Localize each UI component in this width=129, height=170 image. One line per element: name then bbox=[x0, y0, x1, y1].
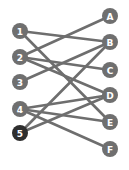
node-E: E bbox=[102, 114, 118, 130]
node-F: F bbox=[102, 141, 118, 157]
node-label: 5 bbox=[17, 129, 23, 139]
edges-layer bbox=[20, 16, 110, 149]
node-B: B bbox=[102, 34, 118, 50]
node-label: 1 bbox=[17, 27, 23, 37]
node-label: 4 bbox=[17, 105, 23, 115]
node-label: E bbox=[107, 118, 113, 128]
node-label: 2 bbox=[17, 53, 23, 63]
node-A: A bbox=[102, 8, 118, 24]
node-5: 5 bbox=[12, 125, 28, 141]
node-label: A bbox=[107, 12, 114, 22]
node-C: C bbox=[102, 62, 118, 78]
node-label: C bbox=[107, 66, 114, 76]
node-label: B bbox=[107, 38, 114, 48]
node-label: 3 bbox=[17, 78, 23, 88]
node-label: F bbox=[107, 145, 113, 155]
node-4: 4 bbox=[12, 101, 28, 117]
node-label: D bbox=[106, 91, 113, 101]
bipartite-graph-diagram: 12345ABCDEF bbox=[0, 0, 129, 170]
node-3: 3 bbox=[12, 74, 28, 90]
node-2: 2 bbox=[12, 49, 28, 65]
nodes-layer: 12345ABCDEF bbox=[12, 8, 118, 157]
node-1: 1 bbox=[12, 23, 28, 39]
edge-2-A bbox=[20, 16, 110, 57]
node-D: D bbox=[102, 87, 118, 103]
